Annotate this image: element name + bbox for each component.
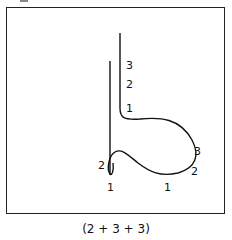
label-loop-right-3: 3 <box>194 146 201 157</box>
label-loop-right-2: 2 <box>191 166 198 177</box>
label-stroke-a-1: 1 <box>126 103 133 114</box>
label-stroke-a-3: 3 <box>126 60 133 71</box>
label-bottom-right-1: 1 <box>164 182 171 193</box>
label-stroke-a-2: 2 <box>126 79 133 90</box>
stroke-diagram <box>0 0 232 240</box>
label-left-loop-2: 2 <box>98 160 105 171</box>
figure-caption: (2 + 3 + 3) <box>0 222 232 236</box>
label-bottom-left-1: 1 <box>107 182 114 193</box>
curved-stroke <box>108 33 196 174</box>
